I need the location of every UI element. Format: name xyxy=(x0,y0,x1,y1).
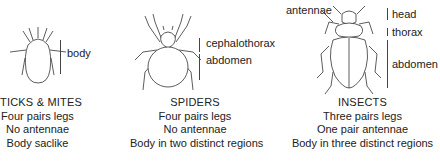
caption-line: One pair antennae xyxy=(290,123,435,137)
caption-line: No antennae xyxy=(130,123,260,137)
body-bracket-line xyxy=(60,40,61,74)
spider-icon xyxy=(133,12,203,92)
caption-insects: INSECTS Three pairs legs One pair antenn… xyxy=(290,96,435,150)
part-label-abdomen: abdomen xyxy=(392,58,438,70)
head-bracket-line xyxy=(387,8,388,20)
caption-title: TICKS & MITES xyxy=(0,96,75,110)
caption-line: Body in three distinct regions xyxy=(290,137,435,151)
part-label-cephalothorax: cephalothorax xyxy=(206,37,275,49)
part-label-body: body xyxy=(67,47,91,59)
part-label-head: head xyxy=(392,8,416,20)
beetle-icon xyxy=(313,2,385,97)
abdomen-bracket-line xyxy=(387,40,388,88)
caption-ticks-mites: TICKS & MITES Four pairs legs No antenna… xyxy=(0,96,75,150)
mite-icon xyxy=(8,25,68,85)
caption-line: No antennae xyxy=(0,123,75,137)
caption-title: SPIDERS xyxy=(130,96,260,110)
caption-line: Body in two distinct regions xyxy=(130,137,260,151)
caption-line: Four pairs legs xyxy=(0,110,75,124)
part-label-abdomen: abdomen xyxy=(206,54,252,66)
caption-line: Three pairs legs xyxy=(290,110,435,124)
caption-line: Body saclike xyxy=(0,137,75,151)
cephalothorax-bracket-line xyxy=(199,38,200,52)
part-label-thorax: thorax xyxy=(392,26,423,38)
caption-spiders: SPIDERS Four pairs legs No antennae Body… xyxy=(130,96,260,150)
thorax-bracket-line xyxy=(387,28,388,36)
caption-title: INSECTS xyxy=(290,96,435,110)
caption-line: Four pairs legs xyxy=(130,110,260,124)
abdomen-bracket-line xyxy=(199,54,200,80)
